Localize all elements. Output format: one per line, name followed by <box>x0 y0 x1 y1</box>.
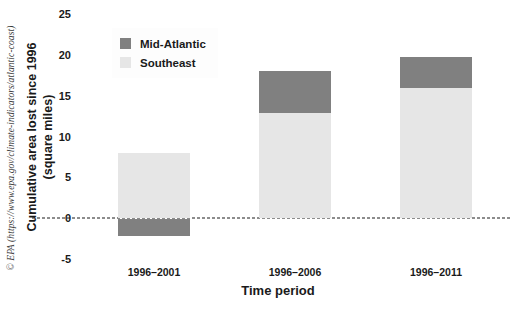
bar-segment-midatlantic[interactable] <box>259 71 331 113</box>
y-tick-25: 25 <box>31 8 71 20</box>
y-tick-neg5: -5 <box>31 253 71 265</box>
legend-label-midatlantic: Mid-Atlantic <box>140 38 206 50</box>
chart-legend: Mid-Atlantic Southeast <box>112 28 218 78</box>
bar-segment-southeast[interactable] <box>259 113 331 218</box>
source-credit: © EPA (https://www.epa.gov/climate-indic… <box>3 18 19 278</box>
legend-swatch-icon <box>120 38 131 49</box>
y-tick-5: 5 <box>31 171 71 183</box>
legend-swatch-icon <box>120 57 131 68</box>
y-tick-20: 20 <box>31 49 71 61</box>
chart-figure: © EPA (https://www.epa.gov/climate-indic… <box>0 0 512 317</box>
x-tick-1996-2011: 1996–2011 <box>366 266 506 278</box>
y-tick-10: 10 <box>31 131 71 143</box>
x-axis-title: Time period <box>78 283 478 298</box>
bar-segment-midatlantic[interactable] <box>118 219 190 236</box>
y-tick-15: 15 <box>31 90 71 102</box>
bar-segment-southeast[interactable] <box>118 153 190 218</box>
bar-segment-midatlantic[interactable] <box>400 57 472 88</box>
legend-item-midatlantic[interactable]: Mid-Atlantic <box>120 34 206 53</box>
x-tick-1996-2001: 1996–2001 <box>84 266 224 278</box>
legend-item-southeast[interactable]: Southeast <box>120 53 206 72</box>
bar-segment-southeast[interactable] <box>400 88 472 218</box>
x-tick-1996-2006: 1996–2006 <box>225 266 365 278</box>
legend-label-southeast: Southeast <box>140 57 196 69</box>
